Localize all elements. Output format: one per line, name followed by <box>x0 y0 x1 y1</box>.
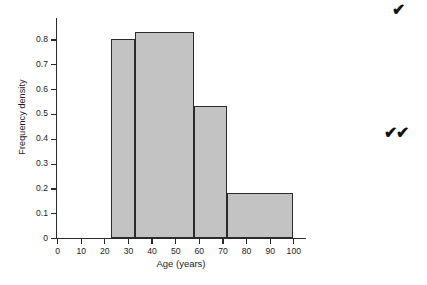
x-tick-label: 0 <box>55 246 60 256</box>
y-tick-0.6: 0.6 <box>51 89 57 90</box>
x-tick-90: 90 <box>270 239 271 244</box>
x-tick-30: 30 <box>128 239 129 244</box>
y-tick-label: 0.4 <box>36 133 48 143</box>
x-tick-10: 10 <box>81 239 82 244</box>
y-tick-label: 0.2 <box>36 183 48 193</box>
x-tick-label: 60 <box>195 246 205 256</box>
y-tick-label: 0.1 <box>36 208 48 218</box>
x-tick-60: 60 <box>199 239 200 244</box>
histogram-bar-bin-23-33 <box>111 39 135 238</box>
x-tick-100: 100 <box>293 239 294 244</box>
x-tick-50: 50 <box>175 239 176 244</box>
histogram-figure: Frequency density Age (years) 00.10.20.3… <box>0 0 330 285</box>
y-tick-0.4: 0.4 <box>51 139 57 140</box>
x-tick-0: 0 <box>57 239 58 244</box>
histogram-bar-bin-72-100 <box>227 193 293 238</box>
y-tick-0.8: 0.8 <box>51 39 57 40</box>
y-tick-0.5: 0.5 <box>51 114 57 115</box>
y-tick-label: 0.3 <box>36 158 48 168</box>
x-tick-80: 80 <box>246 239 247 244</box>
x-tick-label: 40 <box>147 246 157 256</box>
x-tick-40: 40 <box>151 239 152 244</box>
x-tick-20: 20 <box>104 239 105 244</box>
y-axis-title: Frequency density <box>17 47 27 187</box>
y-tick-label: 0.5 <box>36 108 48 118</box>
y-tick-label: 0 <box>43 233 48 243</box>
plot-area <box>57 22 305 238</box>
y-tick-label: 0.8 <box>36 34 48 44</box>
x-tick-label: 80 <box>242 246 252 256</box>
y-tick-0.2: 0.2 <box>51 188 57 189</box>
double-checkmark-annotation: ✔✔ <box>384 125 408 141</box>
x-tick-70: 70 <box>222 239 223 244</box>
x-tick-label: 10 <box>76 246 86 256</box>
y-tick-label: 0.6 <box>36 84 48 94</box>
x-tick-label: 30 <box>124 246 134 256</box>
x-tick-label: 100 <box>287 246 301 256</box>
x-tick-label: 20 <box>100 246 110 256</box>
y-tick-0.3: 0.3 <box>51 164 57 165</box>
y-tick-0.7: 0.7 <box>51 64 57 65</box>
x-tick-label: 90 <box>265 246 275 256</box>
single-checkmark-annotation: ✔ <box>392 2 405 18</box>
x-tick-label: 70 <box>218 246 228 256</box>
x-axis-title: Age (years) <box>57 258 305 269</box>
y-tick-0.1: 0.1 <box>51 213 57 214</box>
histogram-bar-bin-58-72 <box>194 106 227 238</box>
x-tick-label: 50 <box>171 246 181 256</box>
y-tick-label: 0.7 <box>36 59 48 69</box>
histogram-bar-bin-33-58 <box>135 32 194 238</box>
